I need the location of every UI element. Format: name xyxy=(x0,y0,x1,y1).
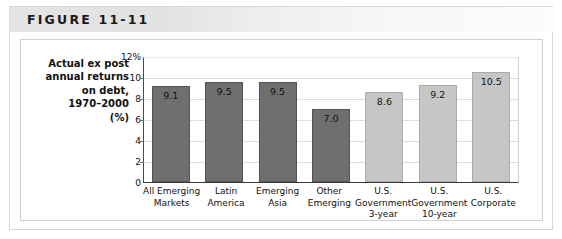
x-axis-label-us-government-10-year: U.S. Government 10-year xyxy=(411,186,467,221)
plot-area: 9.1 9.5 9.5 7. xyxy=(143,57,519,183)
x-axis-label-emerging-asia: Emerging Asia xyxy=(252,186,304,221)
x-label-line: Latin xyxy=(200,186,252,198)
x-label-line: Markets xyxy=(143,198,200,210)
chart-axis-caption: Actual ex post annual returns on debt, 1… xyxy=(25,57,129,124)
bar-cell-0: 9.1 xyxy=(144,58,197,182)
figure-number-label: FIGURE 11-11 xyxy=(27,12,150,27)
x-label-line: Government xyxy=(355,198,411,210)
figure-header-band: FIGURE 11-11 xyxy=(10,7,554,32)
bar-emerging-asia[interactable]: 9.5 xyxy=(259,82,297,182)
x-label-line: U.S. xyxy=(411,186,467,198)
bar-us-government-3-year[interactable]: 8.6 xyxy=(365,92,403,182)
y-axis-tick-12: 12% xyxy=(107,57,141,67)
x-axis-labels: All Emerging Markets Latin America Emerg… xyxy=(143,186,519,221)
bar-cell-2: 9.5 xyxy=(251,58,304,182)
x-label-line: Government xyxy=(411,198,467,210)
x-label-line: 3-year xyxy=(355,209,411,221)
x-label-line: U.S. xyxy=(467,186,519,198)
y-axis-tick-0: 0 xyxy=(107,183,141,193)
x-axis-label-all-emerging-markets: All Emerging Markets xyxy=(143,186,200,221)
bar-value-label-6: 10.5 xyxy=(473,76,509,87)
bar-chart: 12% 10 8 6 4 2 0 xyxy=(133,57,533,217)
bar-value-label-1: 9.5 xyxy=(206,86,242,97)
bar-value-label-5: 9.2 xyxy=(420,89,456,100)
y-axis-tick-8: 8 xyxy=(107,99,141,109)
bar-all-emerging-markets[interactable]: 9.1 xyxy=(152,86,190,182)
bar-value-label-2: 9.5 xyxy=(260,86,296,97)
bar-cell-4: 8.6 xyxy=(358,58,411,182)
bar-cell-5: 9.2 xyxy=(411,58,464,182)
bar-cell-6: 10.5 xyxy=(465,58,518,182)
x-label-line: U.S. xyxy=(355,186,411,198)
figure-body-card: Actual ex post annual returns on debt, 1… xyxy=(20,39,543,221)
x-label-line: Emerging xyxy=(252,186,304,198)
x-label-line: America xyxy=(200,198,252,210)
bar-cell-3: 7.0 xyxy=(304,58,357,182)
bar-series: 9.1 9.5 9.5 7. xyxy=(144,58,518,182)
y-axis-tick-6: 6 xyxy=(107,120,141,130)
x-label-line: Corporate xyxy=(467,198,519,210)
x-label-line: All Emerging xyxy=(143,186,200,198)
figure-frame: FIGURE 11-11 Actual ex post annual retur… xyxy=(9,6,553,230)
y-axis-tick-2: 2 xyxy=(107,162,141,172)
x-axis-label-latin-america: Latin America xyxy=(200,186,252,221)
bar-latin-america[interactable]: 9.5 xyxy=(205,82,243,182)
bar-value-label-3: 7.0 xyxy=(313,113,349,124)
x-label-line: Asia xyxy=(252,198,304,210)
bar-us-corporate[interactable]: 10.5 xyxy=(472,72,510,182)
y-axis-tick-4: 4 xyxy=(107,141,141,151)
bar-us-government-10-year[interactable]: 9.2 xyxy=(419,85,457,182)
bar-value-label-0: 9.1 xyxy=(153,90,189,101)
bar-other-emerging[interactable]: 7.0 xyxy=(312,109,350,183)
x-axis-label-us-government-3-year: U.S. Government 3-year xyxy=(355,186,411,221)
x-label-line: Emerging xyxy=(303,198,355,210)
x-axis-label-us-corporate: U.S. Corporate xyxy=(467,186,519,221)
x-label-line: Other xyxy=(303,186,355,198)
bar-value-label-4: 8.6 xyxy=(366,96,402,107)
x-label-line: 10-year xyxy=(411,209,467,221)
x-axis-label-other-emerging: Other Emerging xyxy=(303,186,355,221)
bar-cell-1: 9.5 xyxy=(197,58,250,182)
y-axis-tick-10: 10 xyxy=(107,78,141,88)
